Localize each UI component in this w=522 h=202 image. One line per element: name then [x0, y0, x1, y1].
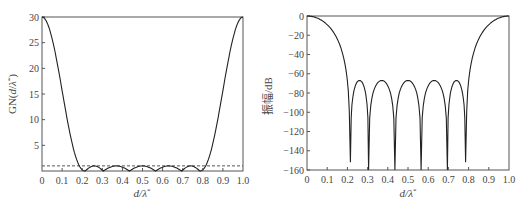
- right-x-axis-title: d/λ*: [400, 187, 417, 199]
- left-y-tick-label: 25: [29, 37, 39, 48]
- right-y-tick-label: 0: [299, 11, 304, 22]
- right-x-tick-label: 0.5: [402, 174, 415, 185]
- chart-canvas: 51015202530 00.10.20.30.40.50.60.70.80.9…: [0, 0, 522, 202]
- right-x-tick-label: 0.8: [462, 174, 475, 185]
- right-y-tick-label: −60: [288, 68, 304, 79]
- left-y-tick-label: 10: [29, 114, 39, 125]
- right-x-tick-label: 0: [305, 174, 310, 185]
- left-y-tick-label: 5: [34, 140, 39, 151]
- right-x-tick-label: 0.2: [341, 174, 354, 185]
- right-y-axis-title: 振幅/dB: [261, 77, 274, 115]
- left-x-tick-label: 0: [40, 175, 45, 186]
- right-x-tick-label: 0.4: [382, 174, 395, 185]
- right-amplitude-db-curve: [307, 16, 509, 170]
- left-x-tick-label: 0.8: [197, 175, 210, 186]
- left-x-tick-label: 0.4: [116, 175, 129, 186]
- right-x-tick-label: 0.7: [442, 174, 455, 185]
- right-x-tick-label: 0.9: [483, 174, 496, 185]
- left-x-tick-label: 0.9: [217, 175, 230, 186]
- left-x-tick-label: 1.0: [237, 175, 250, 186]
- right-x-tick-label: 1.0: [503, 174, 516, 185]
- right-x-tick-label: 0.6: [422, 174, 435, 185]
- right-y-tick-label: −20: [288, 30, 304, 41]
- left-y-tick-label: 20: [29, 63, 39, 74]
- left-y-axis-ticks: 51015202530: [29, 12, 45, 151]
- right-chart: 0−20−40−60−80−100−120−140−160 00.10.20.3…: [261, 11, 515, 200]
- left-x-tick-label: 0.1: [56, 175, 69, 186]
- left-y-tick-label: 30: [29, 12, 39, 23]
- left-x-tick-label: 0.5: [136, 175, 149, 186]
- left-x-axis-title: d/λ*: [134, 187, 151, 199]
- right-y-axis-ticks: 0−20−40−60−80−100−120−140−160: [283, 11, 310, 176]
- right-y-tick-label: −120: [283, 126, 304, 137]
- left-plot-frame: [42, 17, 243, 171]
- left-y-tick-label: 15: [29, 89, 39, 100]
- right-y-tick-label: −40: [288, 49, 304, 60]
- right-y-tick-label: −80: [288, 88, 304, 99]
- right-y-tick-label: −100: [283, 107, 304, 118]
- right-y-tick-label: −140: [283, 145, 304, 156]
- left-x-tick-label: 0.3: [96, 175, 109, 186]
- left-x-tick-label: 0.2: [76, 175, 89, 186]
- right-y-tick-label: −160: [283, 165, 304, 176]
- left-chart: 51015202530 00.10.20.30.40.50.60.70.80.9…: [6, 12, 249, 200]
- left-y-axis-title: GN(d/λ*): [6, 74, 19, 114]
- left-gn-curve: [42, 17, 243, 171]
- right-x-tick-label: 0.1: [321, 174, 334, 185]
- left-x-tick-label: 0.6: [156, 175, 169, 186]
- left-x-tick-label: 0.7: [176, 175, 189, 186]
- right-x-tick-label: 0.3: [361, 174, 374, 185]
